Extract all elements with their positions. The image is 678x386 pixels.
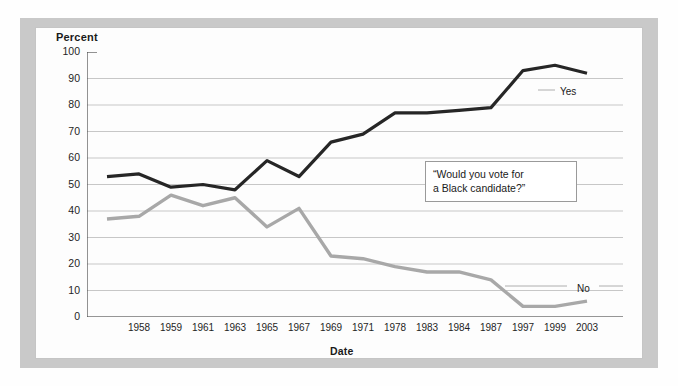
annotation-line-2: a Black candidate?” (433, 181, 569, 195)
chart-screenshot: Percent Date 1009080706050403020100 1958… (0, 0, 678, 386)
x-tick-label: 2003 (566, 322, 608, 333)
survey-question-annotation: “Would you vote for a Black candidate?” (425, 161, 577, 202)
annotation-line-1: “Would you vote for (433, 167, 569, 181)
series-line-no (107, 195, 587, 306)
series-label-no: No (577, 283, 590, 294)
series-label-yes: Yes (560, 86, 576, 97)
